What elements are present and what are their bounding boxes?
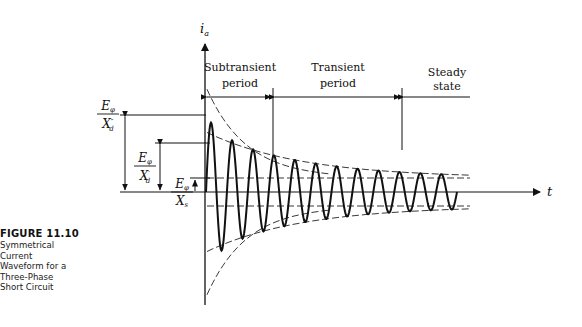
level-label-transient: Eφ X′d: [134, 151, 156, 185]
svg-text:Eφ: Eφ: [174, 177, 189, 192]
x-axis-label: t: [547, 184, 553, 199]
svg-text:Xs: Xs: [175, 194, 189, 209]
current-waveform: [206, 123, 457, 251]
waveform-diagram: ia t Subtransient period Transient perio…: [0, 0, 582, 327]
subtransient-envelope-upper: [207, 89, 329, 174]
svg-text:X″d: X″d: [101, 117, 114, 133]
svg-text:X′d: X′d: [139, 169, 151, 185]
period-label-subtransient-2: period: [222, 77, 258, 90]
period-label-transient-2: period: [320, 77, 356, 90]
period-label-steady-2: state: [433, 80, 461, 93]
level-label-steady: Eφ Xs: [171, 177, 193, 209]
period-label-subtransient-1: Subtransient: [204, 61, 277, 74]
period-label-steady-1: Steady: [428, 66, 467, 79]
y-axis-label: ia: [200, 21, 209, 38]
level-label-subtransient: Eφ X″d: [97, 99, 119, 133]
svg-text:Eφ: Eφ: [100, 99, 115, 114]
svg-text:Eφ: Eφ: [137, 151, 152, 166]
period-label-transient-1: Transient: [311, 61, 365, 74]
